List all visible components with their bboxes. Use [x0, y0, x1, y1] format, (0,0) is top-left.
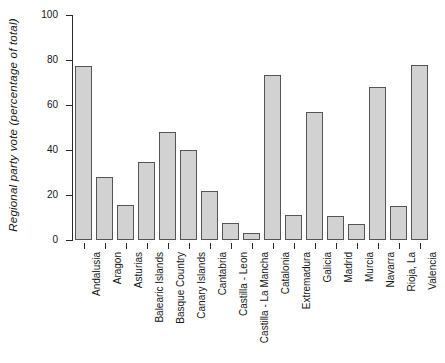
- x-axis-tick-label: Rioja, La: [403, 252, 414, 291]
- x-axis-tick: [84, 243, 85, 249]
- x-axis-tick-label-text: Extremadura: [301, 252, 312, 309]
- bar: [348, 224, 365, 240]
- x-axis-tick: [105, 243, 106, 249]
- y-axis-tick-label-text: 0: [52, 234, 58, 245]
- x-axis-tick-label: Canary Islands: [193, 252, 204, 319]
- x-axis-tick-label: Cantabria: [214, 252, 225, 295]
- x-axis-tick-label-text: Asturias: [133, 252, 144, 288]
- bar: [306, 112, 323, 240]
- bar: [369, 87, 386, 240]
- y-axis-title: Regional party vote (percentage of total…: [0, 0, 26, 250]
- x-axis-tick: [210, 243, 211, 249]
- y-axis-title-text: Regional party vote (percentage of total…: [7, 18, 19, 231]
- y-axis-tick-label-text: 60: [47, 99, 58, 110]
- x-axis-tick: [168, 243, 169, 249]
- x-axis-tick-label: Aragon: [109, 252, 120, 284]
- x-axis-tick-label: Madrid: [340, 252, 351, 283]
- x-axis-tick-label: Castilla - La Mancha: [256, 252, 267, 343]
- x-axis-tick-label-text: Galicia: [322, 252, 333, 283]
- bar-chart: Regional party vote (percentage of total…: [0, 0, 445, 363]
- x-axis-tick-label-text: Canary Islands: [196, 252, 207, 319]
- y-axis-tick-label-text: 80: [47, 54, 58, 65]
- bar: [117, 205, 134, 240]
- x-axis-tick: [189, 243, 190, 249]
- x-axis-tick-label: Basque Country: [172, 252, 183, 324]
- x-axis-tick-label-text: Valencia: [427, 252, 438, 290]
- x-axis-tick: [147, 243, 148, 249]
- bar: [243, 233, 260, 240]
- y-axis-tick-label-text: 40: [47, 144, 58, 155]
- y-axis-tick: [66, 105, 72, 106]
- x-axis-tick-label-text: Catalonia: [280, 252, 291, 294]
- x-axis-tick: [399, 243, 400, 249]
- x-axis-tick-label: Andalusia: [88, 252, 99, 296]
- x-axis-tick-label: Asturias: [130, 252, 141, 288]
- x-axis-tick-label-text: Aragon: [112, 252, 123, 284]
- bar: [96, 177, 113, 240]
- x-axis-tick-label: Catalonia: [277, 252, 288, 294]
- x-axis-tick-label-text: Castilla - Leon: [238, 252, 249, 316]
- y-axis-tick: [66, 15, 72, 16]
- x-axis-tick-label: Castilla - Leon: [235, 252, 246, 316]
- bar: [138, 162, 155, 240]
- x-axis-tick-label: Valencia: [424, 252, 435, 290]
- x-axis-tick-label-text: Rioja, La: [406, 252, 417, 291]
- bar: [264, 75, 281, 240]
- y-axis-tick: [66, 195, 72, 196]
- bar: [222, 223, 239, 240]
- x-axis-tick: [336, 243, 337, 249]
- x-axis-tick: [294, 243, 295, 249]
- x-axis-tick-label: Navarra: [382, 252, 393, 288]
- x-axis-tick-label-text: Madrid: [343, 252, 354, 283]
- y-axis-tick: [66, 150, 72, 151]
- x-axis-tick-label-text: Andalusia: [91, 252, 102, 296]
- x-axis-tick: [252, 243, 253, 249]
- bar: [75, 66, 92, 240]
- x-axis-tick-label: Balearic Islands: [151, 252, 162, 323]
- bar: [180, 150, 197, 240]
- y-axis-tick-label-text: 100: [41, 9, 58, 20]
- x-axis-tick: [315, 243, 316, 249]
- bar: [327, 216, 344, 240]
- x-axis-tick: [231, 243, 232, 249]
- x-axis-tick: [420, 243, 421, 249]
- x-axis-tick-label-text: Cantabria: [217, 252, 228, 295]
- x-axis-tick-label-text: Murcia: [364, 252, 375, 282]
- y-axis-tick-label-text: 20: [47, 189, 58, 200]
- x-axis-tick: [357, 243, 358, 249]
- x-axis-tick-label-text: Balearic Islands: [154, 252, 165, 323]
- x-axis-tick-label-text: Castilla - La Mancha: [259, 252, 270, 343]
- bar: [201, 191, 218, 241]
- x-axis-tick: [378, 243, 379, 249]
- x-axis-tick-label: Extremadura: [298, 252, 309, 309]
- bar: [390, 206, 407, 240]
- bar: [159, 132, 176, 240]
- bar: [411, 65, 428, 241]
- x-axis-tick-label: Galicia: [319, 252, 330, 283]
- x-axis-tick-label: Murcia: [361, 252, 372, 282]
- y-axis-tick: [66, 240, 72, 241]
- y-axis-tick: [66, 60, 72, 61]
- x-axis-tick: [273, 243, 274, 249]
- x-axis-tick-label-text: Navarra: [385, 252, 396, 288]
- plot-area: [73, 15, 430, 240]
- x-axis-tick: [126, 243, 127, 249]
- x-axis-tick-label-text: Basque Country: [175, 252, 186, 324]
- bar: [285, 215, 302, 240]
